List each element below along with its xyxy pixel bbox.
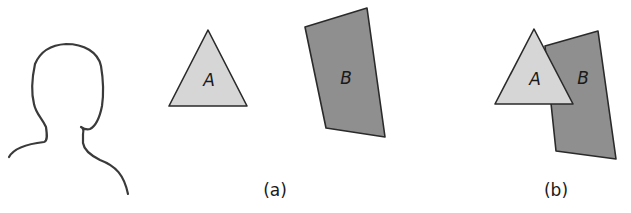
panel-b: B A (b) <box>495 29 616 200</box>
shape-b-label: B <box>577 68 589 88</box>
panel-a-caption: (a) <box>263 180 287 200</box>
shape-b-label: B <box>340 68 352 88</box>
panel-a: B A (a) <box>169 8 385 200</box>
panel-b-caption: (b) <box>544 180 568 200</box>
shape-a-label: A <box>202 70 215 90</box>
shape-a-label: A <box>528 69 541 89</box>
shape-a-triangle <box>169 30 247 106</box>
occlusion-diagram: B A (a) B A (b) <box>0 0 631 213</box>
observer-head-silhouette <box>9 44 128 194</box>
